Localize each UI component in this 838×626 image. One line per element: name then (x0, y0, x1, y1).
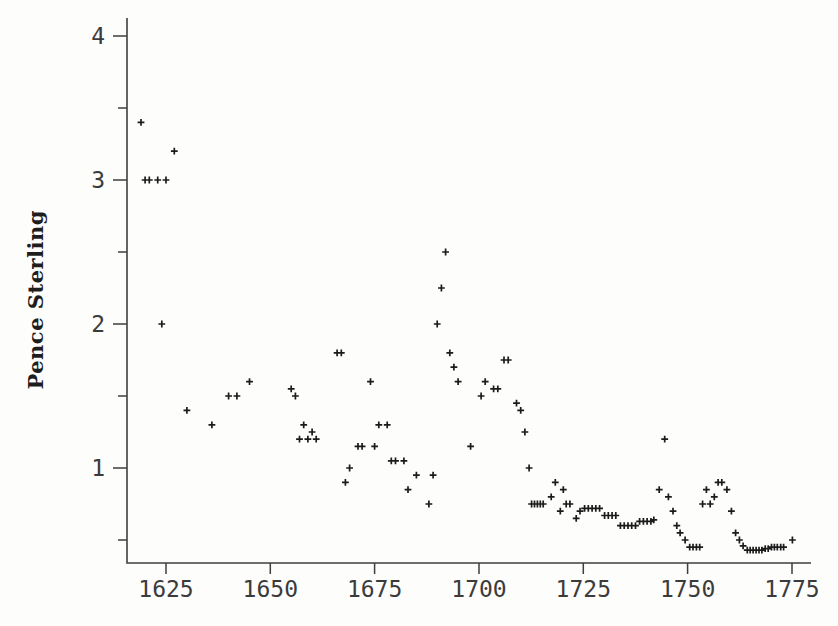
data-point-markers (138, 119, 796, 554)
x-tick-label: 1625 (138, 576, 193, 602)
x-tick-label: 1725 (556, 576, 611, 602)
x-tick-label: 1700 (451, 576, 506, 602)
y-tick-label: 3 (91, 167, 105, 193)
plot-canvas: 16251650167517001725175017751234 (0, 0, 838, 626)
x-tick-label: 1775 (764, 576, 819, 602)
x-tick-label: 1675 (347, 576, 402, 602)
x-tick-label: 1650 (243, 576, 298, 602)
y-tick-label: 1 (91, 455, 105, 481)
axis-ticks (113, 36, 792, 574)
x-tick-label: 1750 (660, 576, 715, 602)
scatter-plot-figure: Pence Sterling 1625165016751700172517501… (0, 0, 838, 626)
axes-lines (127, 18, 811, 563)
y-tick-label: 4 (91, 23, 105, 49)
y-tick-label: 2 (91, 311, 105, 337)
